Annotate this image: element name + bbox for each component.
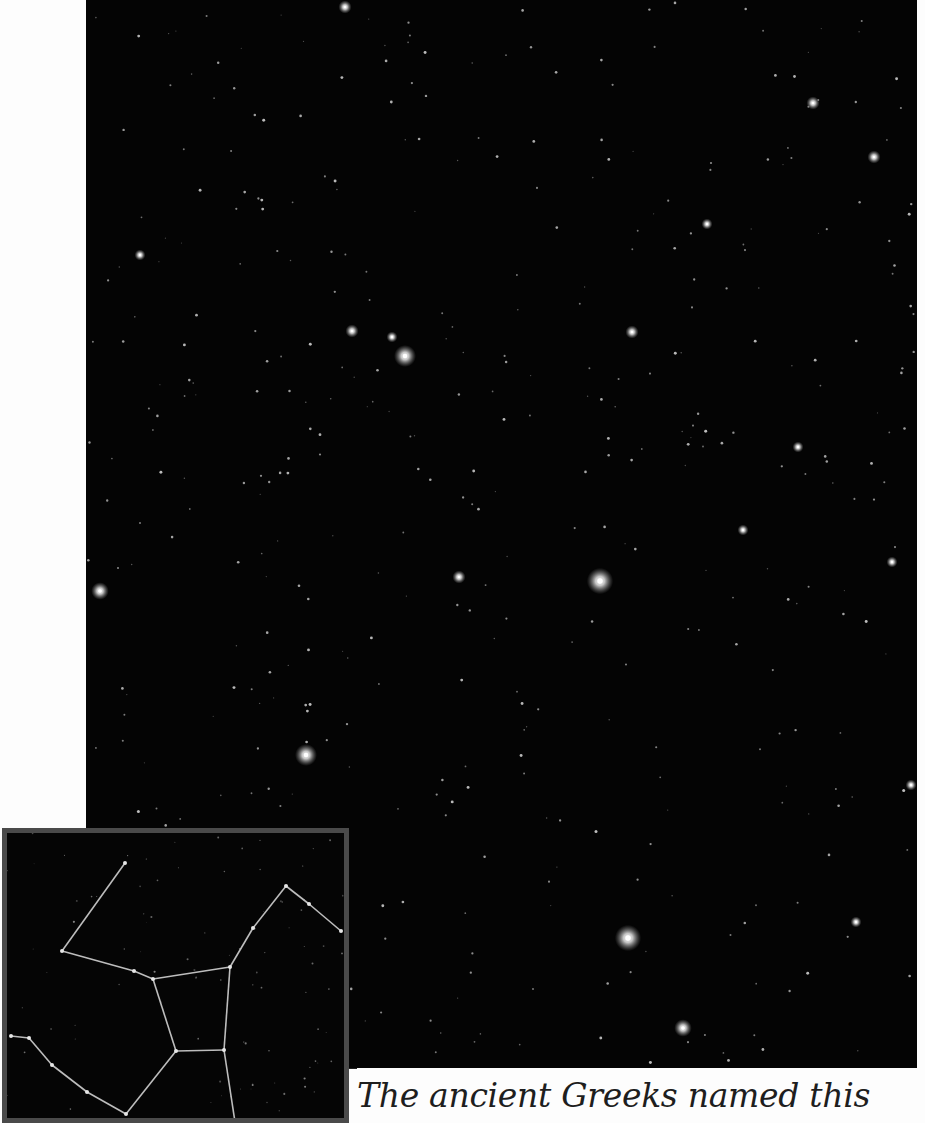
constellation-star — [228, 965, 232, 969]
faint-star — [579, 303, 581, 305]
constellation-star — [251, 926, 255, 930]
faint-star — [618, 378, 620, 380]
faint-star — [526, 726, 527, 727]
faint-star — [588, 367, 590, 369]
faint-star — [496, 155, 499, 158]
faint-star — [88, 441, 90, 443]
faint-star — [34, 863, 35, 864]
faint-star — [184, 478, 185, 479]
faint-star — [730, 934, 732, 936]
faint-star — [313, 848, 314, 849]
faint-star — [303, 41, 304, 42]
faint-star — [213, 97, 215, 99]
faint-star — [257, 747, 259, 749]
faint-star — [870, 462, 873, 465]
bright-star-core — [812, 102, 815, 105]
faint-star — [485, 584, 487, 586]
faint-star — [441, 779, 444, 782]
faint-star — [483, 856, 486, 859]
constellation-line — [134, 971, 153, 979]
faint-star — [148, 407, 150, 409]
faint-star — [286, 472, 289, 475]
faint-star — [755, 904, 757, 906]
faint-star — [168, 33, 169, 34]
faint-star — [425, 95, 427, 97]
faint-star — [600, 398, 603, 401]
faint-star — [143, 913, 144, 914]
faint-star — [261, 208, 264, 211]
faint-star — [691, 306, 693, 308]
constellation-line — [224, 967, 230, 1050]
faint-star — [674, 352, 677, 355]
faint-star — [436, 793, 438, 795]
faint-star — [901, 367, 903, 369]
page-margin — [0, 0, 86, 828]
faint-star — [292, 793, 293, 794]
faint-star — [521, 9, 524, 12]
faint-star — [122, 340, 125, 343]
faint-star — [368, 18, 369, 19]
faint-star — [252, 1084, 254, 1086]
faint-star — [787, 598, 790, 601]
faint-star — [75, 1025, 76, 1026]
faint-star — [723, 1052, 725, 1054]
faint-star — [754, 340, 757, 343]
faint-star — [530, 375, 531, 376]
faint-star — [732, 597, 734, 599]
faint-star — [305, 992, 306, 993]
constellation-star — [151, 977, 155, 981]
faint-star — [600, 139, 603, 142]
faint-star — [183, 343, 186, 346]
faint-star — [144, 762, 145, 763]
bright-star-core — [458, 576, 461, 579]
faint-star — [302, 865, 303, 866]
faint-star — [354, 377, 355, 378]
faint-star — [171, 536, 174, 539]
faint-star — [847, 936, 849, 938]
faint-star — [336, 189, 338, 191]
faint-star — [571, 641, 573, 643]
faint-star — [326, 1032, 327, 1033]
faint-star — [319, 453, 321, 455]
faint-star — [858, 201, 860, 203]
faint-star — [199, 189, 202, 192]
faint-star — [536, 187, 538, 189]
faint-star — [790, 157, 792, 159]
faint-star — [587, 395, 588, 396]
faint-star — [131, 564, 132, 565]
bright-star-core — [597, 578, 602, 583]
faint-star — [192, 382, 194, 384]
faint-star — [495, 491, 496, 492]
faint-star — [407, 22, 409, 24]
faint-star — [288, 390, 290, 392]
faint-star — [344, 253, 346, 255]
faint-star — [519, 1044, 521, 1046]
constellation-line — [286, 886, 309, 904]
constellation-star — [27, 1036, 31, 1040]
faint-star — [649, 843, 651, 845]
faint-star — [329, 839, 331, 841]
faint-star — [912, 313, 914, 315]
faint-star — [309, 427, 312, 430]
faint-star — [467, 786, 470, 789]
faint-star — [305, 741, 308, 744]
faint-star — [791, 365, 793, 367]
faint-star — [709, 169, 711, 171]
faint-star — [505, 54, 507, 56]
faint-star — [516, 274, 518, 276]
faint-star — [471, 952, 473, 954]
bright-star-core — [304, 753, 309, 758]
faint-star — [523, 773, 525, 775]
bright-star-core — [910, 784, 912, 786]
faint-star — [64, 855, 65, 856]
faint-star — [146, 922, 147, 923]
faint-star — [755, 983, 757, 985]
faint-star — [340, 76, 343, 79]
faint-star — [204, 932, 205, 933]
faint-star — [883, 481, 885, 483]
faint-star — [75, 1038, 76, 1039]
faint-star — [292, 201, 294, 203]
faint-star — [458, 393, 460, 395]
constellation-line — [52, 1065, 87, 1092]
faint-star — [230, 150, 232, 152]
